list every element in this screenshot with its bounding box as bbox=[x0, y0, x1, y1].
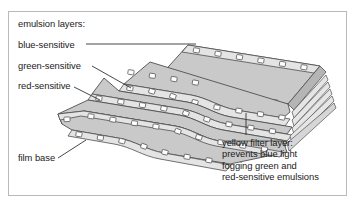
label-film-base: film base bbox=[18, 152, 55, 163]
label-red-sensitive: red-sensitive bbox=[18, 80, 71, 91]
label-emulsion-layers: emulsion layers: bbox=[18, 18, 85, 29]
label-yellow-filter: yellow filter layer: prevents blue light… bbox=[222, 137, 344, 183]
label-green-sensitive: green-sensitive bbox=[18, 60, 81, 71]
figure-container: emulsion layers: blue-sensitive green-se… bbox=[0, 0, 357, 211]
label-yellow-filter-line2: prevents blue light bbox=[222, 148, 344, 159]
label-yellow-filter-line4: red-sensitive emulsions bbox=[222, 171, 344, 182]
label-blue-sensitive: blue-sensitive bbox=[18, 39, 75, 50]
label-yellow-filter-line3: fogging green and bbox=[222, 160, 344, 171]
label-yellow-filter-line1: yellow filter layer: bbox=[222, 137, 344, 148]
